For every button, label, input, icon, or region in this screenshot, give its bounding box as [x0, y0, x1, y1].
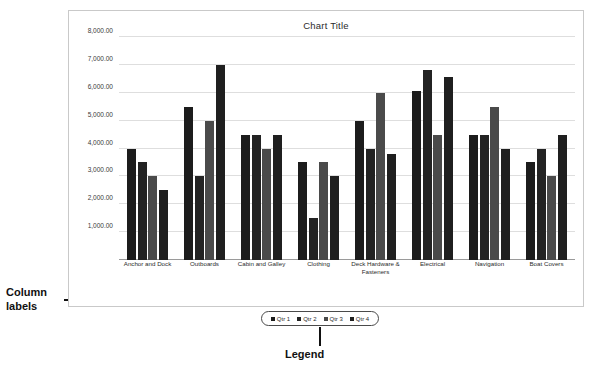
- category-label: Boat Covers: [518, 260, 575, 292]
- bar-group: [290, 37, 347, 260]
- y-axis-tick-label: 1,000.00: [88, 222, 113, 229]
- bar[interactable]: [376, 93, 385, 260]
- bar-group: [347, 37, 404, 260]
- bar-group: [233, 37, 290, 260]
- bar[interactable]: [444, 77, 453, 260]
- y-axis-tick-label: 4,000.00: [88, 138, 113, 145]
- bar[interactable]: [480, 135, 489, 260]
- plot-area: 8,000.007,000.006,000.005,000.004,000.00…: [119, 37, 575, 260]
- bar[interactable]: [252, 135, 261, 260]
- legend-label: Qtr 1: [277, 316, 290, 322]
- bar-group: [119, 37, 176, 260]
- y-axis-tick-label: 7,000.00: [88, 54, 113, 61]
- y-axis-tick-label: 5,000.00: [88, 110, 113, 117]
- bar[interactable]: [138, 162, 147, 260]
- legend-label: Qtr 4: [356, 316, 369, 322]
- bar[interactable]: [490, 107, 499, 260]
- bar[interactable]: [273, 135, 282, 260]
- bar[interactable]: [330, 176, 339, 260]
- category-label: Cabin and Galley: [233, 260, 290, 292]
- chart-container[interactable]: Chart Title 8,000.007,000.006,000.005,00…: [68, 10, 584, 307]
- bar[interactable]: [205, 121, 214, 260]
- legend-item[interactable]: Qtr 1: [271, 316, 290, 322]
- bar-group: [461, 37, 518, 260]
- bar[interactable]: [526, 162, 535, 260]
- bar[interactable]: [127, 149, 136, 261]
- bar[interactable]: [355, 121, 364, 260]
- bar[interactable]: [298, 162, 307, 260]
- legend-swatch: [324, 317, 328, 321]
- category-label: Deck Hardware & Fasteners: [347, 260, 404, 292]
- bar[interactable]: [412, 91, 421, 260]
- chart-legend[interactable]: Qtr 1Qtr 2Qtr 3Qtr 4: [261, 311, 379, 326]
- bar[interactable]: [469, 135, 478, 260]
- bar[interactable]: [319, 162, 328, 260]
- bar-groups: [119, 37, 575, 260]
- bar[interactable]: [433, 135, 442, 260]
- bar[interactable]: [537, 149, 546, 261]
- bar[interactable]: [501, 149, 510, 261]
- bar[interactable]: [558, 135, 567, 260]
- bar[interactable]: [366, 149, 375, 261]
- category-label: Clothing: [290, 260, 347, 292]
- bar[interactable]: [148, 176, 157, 260]
- bar[interactable]: [184, 107, 193, 260]
- y-axis-tick-label: 3,000.00: [88, 166, 113, 173]
- chart-title: Chart Title: [69, 20, 583, 31]
- category-axis-labels: Anchor and DockOutboardsCabin and Galley…: [119, 260, 575, 292]
- y-axis-tick-label: 8,000.00: [88, 27, 113, 34]
- legend-item[interactable]: Qtr 4: [350, 316, 369, 322]
- legend-swatch: [297, 317, 301, 321]
- legend-item[interactable]: Qtr 3: [324, 316, 343, 322]
- category-label: Anchor and Dock: [119, 260, 176, 292]
- bar[interactable]: [423, 70, 432, 260]
- y-axis-tick-label: 2,000.00: [88, 194, 113, 201]
- category-label: Outboards: [176, 260, 233, 292]
- bar-group: [404, 37, 461, 260]
- bar-group: [518, 37, 575, 260]
- category-label: Navigation: [461, 260, 518, 292]
- bar[interactable]: [387, 154, 396, 260]
- bar[interactable]: [159, 190, 168, 260]
- annotation-legend: Legend: [285, 348, 324, 360]
- legend-swatch: [271, 317, 275, 321]
- bar[interactable]: [547, 176, 556, 260]
- bar[interactable]: [262, 149, 271, 261]
- bar[interactable]: [216, 65, 225, 260]
- bar[interactable]: [241, 135, 250, 260]
- legend-swatch: [350, 317, 354, 321]
- bar-group: [176, 37, 233, 260]
- legend-label: Qtr 2: [303, 316, 316, 322]
- annotation-column-labels: Column labels: [6, 286, 66, 314]
- legend-label: Qtr 3: [330, 316, 343, 322]
- y-axis-tick-label: 6,000.00: [88, 82, 113, 89]
- legend-item[interactable]: Qtr 2: [297, 316, 316, 322]
- bar[interactable]: [195, 176, 204, 260]
- category-label: Electrical: [404, 260, 461, 292]
- annotation-legend-leader-line: [319, 327, 321, 346]
- bar[interactable]: [309, 218, 318, 260]
